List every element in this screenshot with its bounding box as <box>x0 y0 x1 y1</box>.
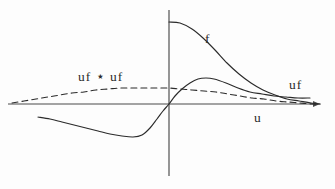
label-f: f <box>205 32 210 46</box>
plot-canvas <box>0 0 335 189</box>
label-axis-u: u <box>254 111 261 125</box>
curve-uf <box>38 78 310 137</box>
label-uf: uf <box>289 78 302 92</box>
figure-container: uf ⋆ uf f uf u <box>0 0 335 189</box>
label-uf-conv-uf: uf ⋆ uf <box>78 70 123 84</box>
